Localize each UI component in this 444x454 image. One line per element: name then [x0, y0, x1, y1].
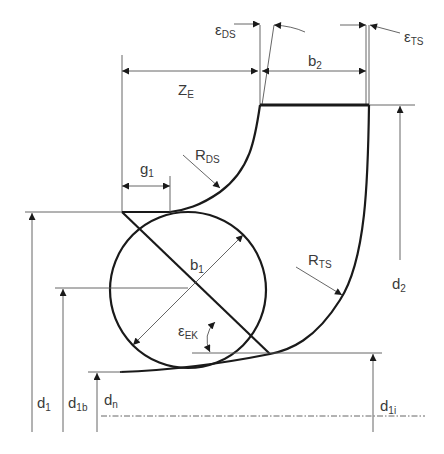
shroud-contour [120, 105, 369, 372]
label-b1: b1 [190, 256, 204, 275]
label-d1b: d1b [68, 394, 88, 413]
impeller-geometry-diagram: εDS εTS ZE b2 g1 RDS RTS b1 εEK d2 d1 d1… [0, 0, 444, 454]
label-eps-ds: εDS [215, 21, 236, 40]
label-b2: b2 [308, 52, 322, 71]
label-g1: g1 [140, 160, 154, 179]
g1-dimension [122, 176, 170, 212]
label-rds: RDS [195, 146, 220, 165]
ze-dimension [122, 55, 258, 212]
rts-pointer [296, 267, 342, 295]
eps-ek-arc [207, 322, 215, 352]
label-ze: ZE [178, 81, 194, 100]
label-rts: RTS [308, 251, 332, 270]
eps-ds-indicator [234, 24, 305, 105]
label-dn: dn [104, 391, 118, 410]
eps-ts-indicator [340, 25, 400, 105]
hub-contour [122, 105, 260, 212]
label-d1i: d1i [380, 397, 396, 416]
b1-arrow [133, 235, 243, 345]
label-eps-ts: εTS [404, 28, 424, 47]
label-d2: d2 [392, 275, 406, 294]
label-eps-ek: εEK [178, 322, 198, 341]
label-d1: d1 [37, 394, 51, 413]
